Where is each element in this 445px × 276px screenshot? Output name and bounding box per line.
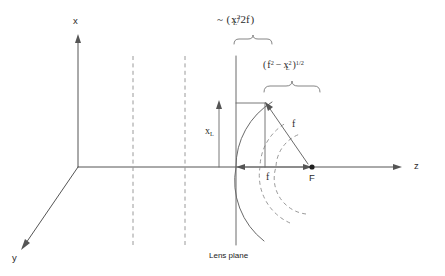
right-formula-exponent: 1/2	[296, 59, 304, 66]
right-formula-open-paren: (	[263, 59, 266, 70]
figure-root: x y z ~(x2L/2f) (f2−x2L)1/2 xL f f F Len…	[0, 0, 445, 276]
x-l-arrowhead	[216, 100, 222, 109]
helper-lines-group	[236, 103, 266, 167]
focal-ray-group	[265, 102, 308, 164]
y-axis-line	[26, 167, 78, 243]
right-formula-term2-sub: L	[286, 64, 290, 71]
top-formula-tilde: ~	[217, 13, 223, 25]
focal-length-arrowhead-left	[236, 164, 245, 170]
x-l-label: xL	[205, 126, 214, 136]
right-formula-minus: −	[276, 59, 282, 70]
focal-ray-line	[268, 106, 308, 164]
y-axis-arrowhead	[21, 239, 30, 250]
top-formula: ~(x2L/2f)	[217, 14, 254, 25]
lens-plane-caption: Lens plane	[209, 252, 248, 260]
focal-point-marker	[309, 164, 314, 169]
focal-length-axis-label: f	[266, 172, 269, 182]
top-formula-close-paren: )	[251, 13, 255, 25]
right-formula-term1-sup: 2	[271, 59, 274, 66]
x-axis-label: x	[73, 16, 78, 26]
top-formula-denominator: 2f	[240, 13, 249, 25]
dashed-arc-outer	[274, 134, 306, 214]
x-l-measure-arrow	[216, 100, 222, 167]
right-formula: (f2−x2L)1/2	[263, 60, 304, 70]
y-axis-label: y	[12, 253, 17, 263]
focal-length-measure-arrow	[236, 164, 312, 170]
diagram-canvas	[0, 0, 445, 276]
top-formula-fraction: x2L/2f	[230, 14, 250, 25]
dashed-planes-group	[133, 56, 185, 245]
axis-group	[21, 34, 402, 250]
x-l-label-subscript: L	[210, 130, 214, 137]
brace-top	[234, 35, 272, 44]
z-axis-label: z	[414, 161, 419, 171]
focal-point-label: F	[309, 173, 315, 183]
dashed-arc-inner	[259, 123, 290, 223]
z-axis-arrowhead	[393, 164, 402, 170]
brace-right	[264, 81, 320, 92]
focal-length-ray-label: f	[292, 119, 295, 129]
x-axis-arrowhead	[75, 34, 81, 43]
